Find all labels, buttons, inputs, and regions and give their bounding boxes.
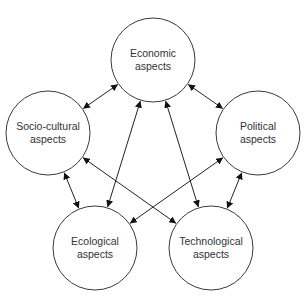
node-label-political: Political aspects [213, 120, 303, 146]
node-label-ecological: Ecological aspects [50, 235, 140, 261]
label-line: aspects [108, 60, 198, 73]
label-line: aspects [3, 133, 93, 146]
edge-economic-socio-cultural [83, 85, 117, 109]
label-line: Economic [108, 47, 198, 60]
label-line: Ecological [50, 235, 140, 248]
edges [64, 85, 241, 224]
label-line: aspects [213, 133, 303, 146]
edge-economic-technological [166, 101, 199, 207]
edge-political-technological [227, 173, 241, 208]
edge-economic-political [188, 85, 222, 109]
label-line: Socio-cultural [3, 120, 93, 133]
label-line: aspects [166, 248, 256, 261]
node-label-economic: Economic aspects [108, 47, 198, 73]
label-line: aspects [50, 248, 140, 261]
node-label-technological: Technological aspects [166, 235, 256, 261]
edge-economic-ecological [108, 101, 141, 207]
edge-socio-cultural-ecological [64, 173, 78, 208]
label-line: Political [213, 120, 303, 133]
label-line: Technological [166, 235, 256, 248]
node-label-socio-cultural: Socio-cultural aspects [3, 120, 93, 146]
